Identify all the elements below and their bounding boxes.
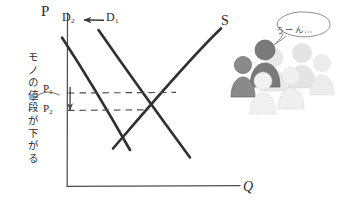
diagram-canvas: P Q S D₂ D₁ P₁ P₂ モノの値段が下がる うーん… <box>0 0 344 213</box>
curve-label-d1: D₁ <box>106 11 119 23</box>
demand-curve-d2 <box>62 38 130 151</box>
axis-label-q: Q <box>243 180 253 194</box>
axis-label-p: P <box>41 4 49 19</box>
curve-label-s: S <box>221 14 229 28</box>
curve-label-d2: D₂ <box>62 11 75 23</box>
demand-curve-d1 <box>99 30 191 158</box>
price-label-p1: P₁ <box>43 83 53 94</box>
speech-bubble-text: うーん… <box>276 22 313 35</box>
supply-curve-s <box>113 29 221 149</box>
price-label-p2: P₂ <box>43 103 53 114</box>
price-line-p2 <box>68 110 149 111</box>
annotation-price-falls: モノの値段が下がる <box>21 52 37 165</box>
